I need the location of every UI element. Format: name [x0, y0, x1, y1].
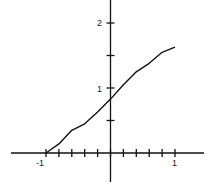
- chart-canvas: [0, 0, 217, 193]
- y-tick-label-1: 1: [97, 85, 102, 94]
- x-tick-label-neg1: -1: [36, 159, 44, 168]
- x-tick-label-1: 1: [172, 159, 177, 168]
- y-tick-label-2: 2: [97, 19, 102, 28]
